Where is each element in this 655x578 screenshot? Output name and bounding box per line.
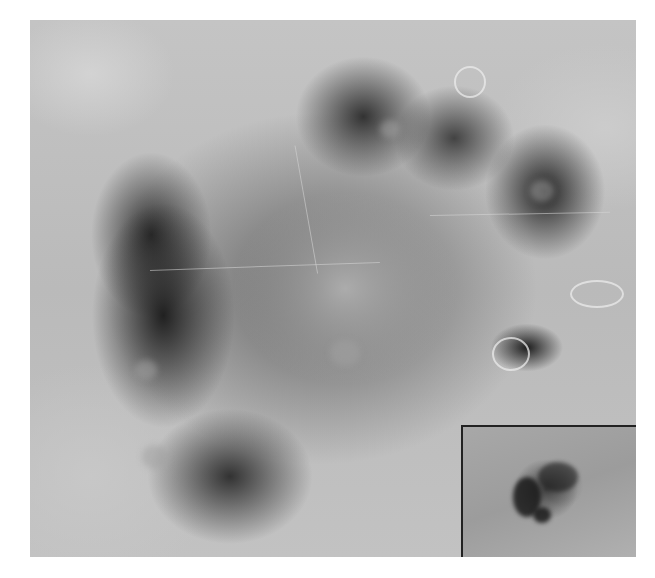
globule [142, 445, 168, 469]
globule [135, 360, 157, 380]
air-bubble [570, 280, 624, 308]
inset-lesion [533, 507, 551, 523]
globule [330, 340, 360, 366]
clinical-inset-photo [461, 425, 636, 557]
air-bubble [454, 66, 486, 98]
globule [530, 180, 554, 202]
inset-lesion [538, 462, 578, 492]
dermoscopy-image [30, 20, 636, 557]
globule [380, 120, 400, 138]
air-bubble [492, 337, 530, 371]
